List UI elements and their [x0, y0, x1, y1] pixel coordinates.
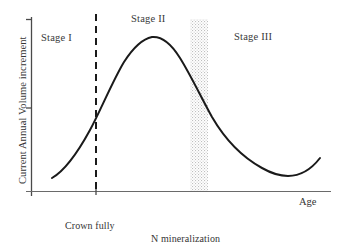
x-axis-label: Age	[299, 196, 317, 208]
crown-formed-annotation: Crown fully formed	[65, 196, 115, 251]
stage-one-label: Stage I	[41, 32, 72, 44]
stage-two-label: Stage II	[131, 13, 166, 25]
crown-formed-line-1: Crown fully	[65, 220, 115, 232]
n-mineralization-line-1: N mineralization	[151, 233, 243, 245]
y-axis-label: Current Annual Volume increment	[17, 25, 29, 195]
stage-three-label: Stage III	[234, 31, 272, 43]
n-mineralization-annotation: N mineralization may fall to less than t…	[151, 209, 243, 251]
chart-figure: Current Annual Volume increment Stage I …	[0, 0, 353, 251]
increment-curve	[52, 37, 320, 178]
